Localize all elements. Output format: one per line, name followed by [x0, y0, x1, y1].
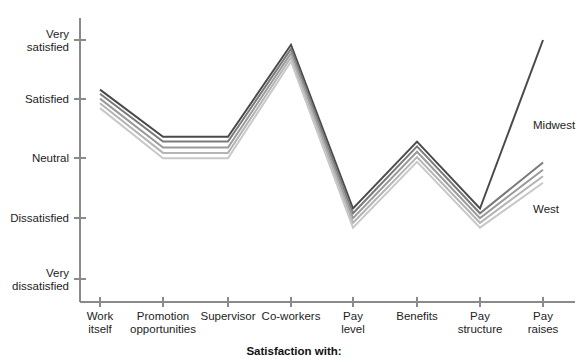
series-line-midwest [100, 40, 543, 209]
series-line-west [100, 62, 543, 228]
series-lines [100, 40, 543, 228]
series-line-region-3 [100, 53, 543, 218]
x-tick-label-line-2: opportunities [103, 323, 223, 336]
y-tick-label-3: Dissatisfied [10, 212, 69, 225]
y-tick-label-1: Satisfied [25, 93, 69, 106]
axis-lines [74, 18, 575, 307]
y-tick-label-line-1: Satisfied [25, 93, 69, 106]
x-tick-label-line-2: level [293, 323, 413, 336]
x-tick-label-line-2: raises [483, 323, 588, 336]
y-tick-label-line-2: dissatisfied [12, 280, 69, 293]
series-annotation-west: West [533, 203, 559, 215]
y-tick-label-4: Verydissatisfied [12, 267, 69, 292]
series-line-region-4 [100, 57, 543, 223]
y-tick-label-line-1: Dissatisfied [10, 212, 69, 225]
y-tick-label-line-1: Very [27, 28, 69, 41]
series-line-region-2 [100, 49, 543, 213]
series-annotation-midwest: Midwest [533, 119, 575, 131]
x-axis-title: Satisfaction with: [0, 345, 588, 357]
y-tick-label-0: Verysatisfied [27, 28, 69, 53]
y-tick-label-line-1: Neutral [32, 152, 69, 165]
x-tick-label-line-1: Pay [483, 310, 588, 323]
satisfaction-line-chart: VerysatisfiedSatisfiedNeutralDissatisfie… [0, 0, 588, 364]
y-tick-label-line-2: satisfied [27, 41, 69, 54]
y-tick-label-line-1: Very [12, 267, 69, 280]
x-tick-label-7: Payraises [483, 310, 588, 335]
y-tick-label-2: Neutral [32, 152, 69, 165]
